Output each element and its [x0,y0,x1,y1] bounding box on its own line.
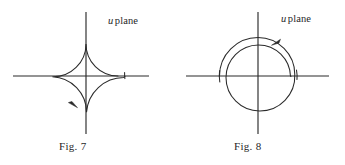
fig-8-spiral-contour [220,38,295,112]
fig-8-plane-symbol: u [281,13,288,24]
figure-fig-8 [186,12,329,134]
fig-7-direction-arrowhead [68,101,77,107]
fig-7-spiral-contour [52,44,125,112]
figure-sheet: uplane uplane Fig. 7 Fig. 8 [0,0,345,165]
fig-8-plane-word: plane [288,13,311,24]
fig-7-plane-label: uplane [108,15,138,26]
fig-8-caption: Fig. 8 [234,140,261,152]
fig-8-contour-outer-endpoint [297,70,298,80]
fig-7-plane-symbol: u [108,15,115,26]
fig-7-caption: Fig. 7 [59,140,86,152]
fig-8-contour-left-endpoint [219,71,220,83]
figures-drawing [0,0,345,165]
figure-fig-7 [13,12,149,134]
fig-7-plane-word: plane [115,15,138,26]
fig-8-plane-label: uplane [281,13,311,24]
